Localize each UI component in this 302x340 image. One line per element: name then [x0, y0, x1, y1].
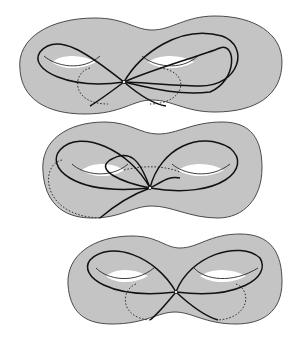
base-point-bottom	[174, 290, 177, 293]
diagram-canvas	[0, 0, 302, 340]
surface-bottom	[68, 234, 282, 324]
base-point-top	[122, 80, 125, 83]
surface-middle	[43, 122, 262, 218]
surface-top	[20, 16, 282, 114]
base-point-middle	[148, 186, 151, 189]
